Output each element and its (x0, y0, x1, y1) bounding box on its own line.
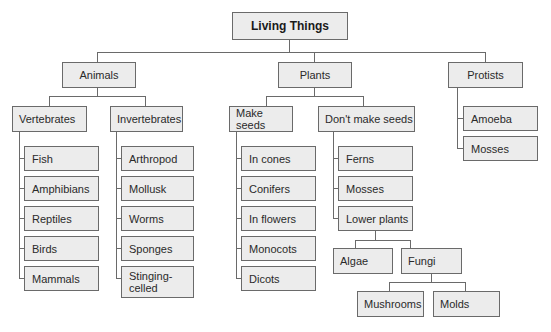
node-birds: Birds (24, 236, 99, 261)
connector (266, 96, 364, 97)
node-stinging-celled: Stinging- celled (121, 266, 194, 298)
connector (236, 131, 237, 279)
node-make-seeds: Make seeds (229, 106, 293, 132)
node-living-things: Living Things (232, 12, 348, 40)
connector (389, 282, 466, 283)
node-algae: Algae (333, 248, 393, 274)
node-mosses-plants: Mosses (338, 176, 413, 201)
connector (465, 282, 466, 291)
node-mushrooms: Mushrooms (357, 291, 424, 317)
connector (97, 52, 98, 62)
connector (145, 96, 146, 106)
node-arthropod: Arthropod (121, 146, 194, 171)
node-animals: Animals (62, 62, 136, 88)
connector (266, 96, 267, 106)
connector (314, 52, 315, 62)
node-mammals: Mammals (24, 266, 99, 291)
connector (49, 96, 146, 97)
node-conifers: Conifers (241, 176, 316, 201)
node-fish: Fish (24, 146, 99, 171)
node-dont-make-seeds: Don't make seeds (318, 106, 415, 132)
classification-tree-diagram: Living Things Animals Plants Protists Ve… (0, 0, 551, 332)
connector (375, 230, 376, 240)
node-in-flowers: In flowers (241, 206, 316, 231)
node-fungi: Fungi (401, 248, 462, 274)
node-worms: Worms (121, 206, 194, 231)
node-invertebrates: Invertebrates (110, 106, 183, 132)
connector (333, 131, 334, 219)
node-molds: Molds (433, 291, 500, 317)
node-lower-plants: Lower plants (338, 206, 413, 231)
node-sponges: Sponges (121, 236, 194, 261)
node-amoeba: Amoeba (463, 106, 538, 131)
connector (19, 131, 20, 279)
connector (431, 273, 432, 282)
connector (97, 52, 486, 53)
node-in-cones: In cones (241, 146, 316, 171)
node-ferns: Ferns (338, 146, 413, 171)
connector (485, 52, 486, 62)
node-monocots: Monocots (241, 236, 316, 261)
connector (116, 131, 117, 279)
node-plants: Plants (278, 62, 352, 88)
connector (363, 96, 364, 106)
connector (289, 39, 290, 52)
node-dicots: Dicots (241, 266, 316, 291)
node-vertebrates: Vertebrates (12, 106, 87, 132)
node-reptiles: Reptiles (24, 206, 99, 231)
node-amphibians: Amphibians (24, 176, 99, 201)
connector (314, 87, 315, 96)
node-protists: Protists (448, 62, 523, 88)
connector (97, 87, 98, 96)
connector (49, 96, 50, 106)
node-mosses-protists: Mosses (463, 136, 538, 161)
connector (389, 282, 390, 291)
node-mollusk: Mollusk (121, 176, 194, 201)
connector (355, 240, 411, 241)
